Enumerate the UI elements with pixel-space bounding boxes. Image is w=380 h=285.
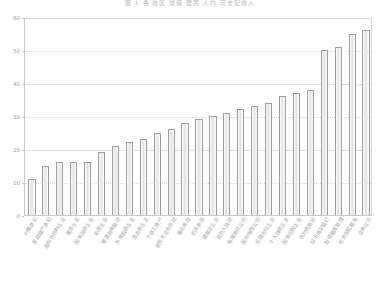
y-tick-label: 40 [13,81,20,87]
bar [237,109,244,215]
bar [195,119,202,215]
bar [293,93,300,215]
bar [181,123,188,215]
bar-series [25,19,371,215]
y-tick-label: 60 [13,15,20,21]
plot-area [24,18,372,216]
y-tick-label: 50 [13,48,20,54]
bar [126,142,133,215]
bar [112,146,119,215]
bar [265,103,272,215]
x-tick-label: 证券公司 [357,217,372,237]
chart-title: 图 1 各 地区 城镇 居民 人均 可支配收入 [0,0,380,6]
bar [307,90,314,215]
bar [279,96,286,215]
x-axis-labels: 村集体化家庭联产承包股份合作制企业集体企业国有独资企业私营企业港澳台商投资外商投… [24,217,372,285]
bar [209,116,216,215]
bar [140,139,147,215]
bar [223,113,230,215]
y-tick-label: 20 [13,147,20,153]
bar [98,152,105,215]
bar [335,47,342,215]
bar [154,133,161,216]
bar [251,106,258,215]
y-tick-label: 30 [13,114,20,120]
bar-chart: 图 1 各 地区 城镇 居民 人均 可支配收入 0102030405060 村集… [0,0,380,285]
y-tick-label: 10 [13,180,20,186]
bar [362,30,369,215]
bar [28,179,35,215]
bar [168,129,175,215]
y-axis: 0102030405060 [0,18,24,216]
bar [84,162,91,215]
bar [349,34,356,216]
bar [321,50,328,215]
bar [70,162,77,215]
bar [56,162,63,215]
bar [42,166,49,216]
y-tick-label: 0 [17,213,21,219]
